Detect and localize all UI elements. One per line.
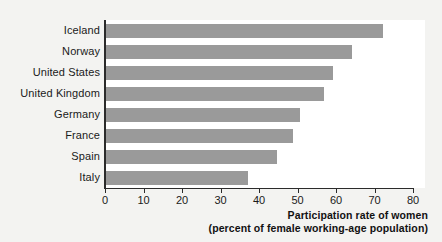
category-label-norway: Norway bbox=[0, 46, 100, 57]
bar-norway bbox=[106, 45, 352, 59]
table-row: Norway bbox=[0, 41, 442, 62]
bar-italy bbox=[106, 171, 248, 185]
x-tick-label: 60 bbox=[330, 194, 342, 206]
table-row: United States bbox=[0, 62, 442, 83]
tick-mark bbox=[336, 188, 337, 193]
x-tick-label: 20 bbox=[176, 194, 188, 206]
tick-mark bbox=[375, 188, 376, 193]
category-label-france: France bbox=[0, 130, 100, 141]
x-tick-label: 30 bbox=[214, 194, 226, 206]
table-row: Iceland bbox=[0, 20, 442, 41]
x-axis-title-line2: (percent of female working-age populatio… bbox=[108, 222, 428, 235]
category-label-italy: Italy bbox=[0, 172, 100, 183]
table-row: Spain bbox=[0, 146, 442, 167]
category-label-iceland: Iceland bbox=[0, 25, 100, 36]
x-axis-title-line1: Participation rate of women bbox=[288, 209, 428, 221]
x-tick-label: 10 bbox=[137, 194, 149, 206]
table-row: Italy bbox=[0, 167, 442, 188]
tick-mark bbox=[221, 188, 222, 193]
bar-germany bbox=[106, 108, 300, 122]
tick-mark bbox=[182, 188, 183, 193]
category-label-united-states: United States bbox=[0, 67, 100, 78]
x-axis-ticks: 0 10 20 30 40 50 60 70 bbox=[0, 188, 442, 210]
category-label-spain: Spain bbox=[0, 151, 100, 162]
bar-united-kingdom bbox=[106, 87, 324, 101]
bar-spain bbox=[106, 150, 277, 164]
table-row: Germany bbox=[0, 104, 442, 125]
tick-mark bbox=[144, 188, 145, 193]
x-tick-label: 0 bbox=[102, 194, 108, 206]
bar-rows: Iceland Norway United States United King… bbox=[0, 20, 442, 188]
x-tick-label: 40 bbox=[253, 194, 265, 206]
table-row: France bbox=[0, 125, 442, 146]
tick-mark bbox=[259, 188, 260, 193]
x-tick-label: 70 bbox=[368, 194, 380, 206]
tick-mark bbox=[298, 188, 299, 193]
bar-iceland bbox=[106, 24, 383, 38]
x-tick-label: 50 bbox=[291, 194, 303, 206]
bar-united-states bbox=[106, 66, 333, 80]
table-row: United Kingdom bbox=[0, 83, 442, 104]
x-axis-title: Participation rate of women (percent of … bbox=[108, 209, 428, 235]
category-label-germany: Germany bbox=[0, 109, 100, 120]
x-tick-label: 80 bbox=[407, 194, 419, 206]
category-label-united-kingdom: United Kingdom bbox=[0, 88, 100, 99]
tick-mark bbox=[105, 188, 106, 193]
bar-france bbox=[106, 129, 293, 143]
tick-mark bbox=[413, 188, 414, 193]
bar-chart-figure: Iceland Norway United States United King… bbox=[0, 0, 442, 242]
